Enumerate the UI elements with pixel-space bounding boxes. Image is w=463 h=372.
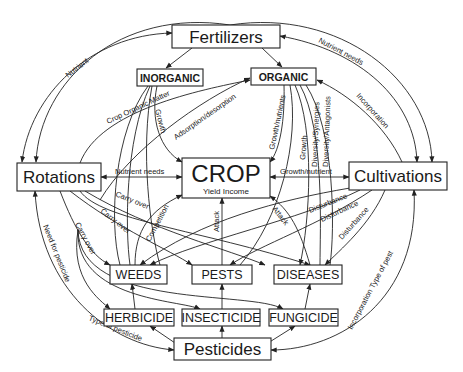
crop-sublabel: Yield Income — [203, 187, 250, 196]
node-organic: ORGANIC — [251, 68, 316, 85]
crop-label: CROP — [191, 160, 260, 187]
label-nutrient-needs-mid: Nutrient needs — [115, 167, 165, 176]
label-growth-organic: Growth — [298, 135, 309, 160]
label-diversity-antagonists: Diversity/Antagonists — [321, 96, 332, 167]
node-rotations: Rotations — [17, 163, 101, 191]
inorganic-label: INORGANIC — [140, 72, 201, 84]
herbicide-label: HERBICIDE — [105, 311, 173, 325]
node-diseases: DISEASES — [274, 265, 342, 284]
label-nutrient-needs-top: Nutrient needs — [317, 36, 365, 67]
diseases-label: DISEASES — [277, 268, 340, 282]
label-carry-over-1: Carry over — [114, 190, 151, 212]
node-crop: CROP Yield Income — [182, 158, 270, 198]
rotations-label: Rotations — [23, 168, 95, 187]
label-incorporation-type-of-pest: Incorporation Type of pest — [346, 249, 396, 331]
node-inorganic: INORGANIC — [137, 69, 203, 86]
label-adsorption: Adsorption/desorption — [172, 92, 238, 142]
node-fertilizers: Fertilizers — [172, 25, 280, 48]
cultivations-label: Cultivations — [354, 167, 442, 186]
label-attack-1: Attack — [212, 211, 221, 232]
crop-system-diagram: Nutrient Nutrient needs Crop Organic Mat… — [0, 0, 463, 372]
label-nutrient: Nutrient — [64, 56, 91, 80]
node-pesticides: Pesticides — [174, 338, 271, 360]
weeds-label: WEEDS — [116, 268, 162, 282]
fungicide-label: FUNGICIDE — [269, 311, 338, 325]
label-diversity-synergies: Diversity/Synergies — [310, 102, 321, 167]
pesticides-label: Pesticides — [184, 340, 261, 359]
label-growth-nutrients: Growth/nutrients — [267, 94, 287, 151]
node-herbicide: HERBICIDE — [104, 309, 174, 326]
node-pests: PESTS — [192, 265, 252, 284]
pests-label: PESTS — [202, 268, 243, 282]
label-growth-nutrient: Growth/nutrient — [280, 167, 333, 176]
label-growth-inorganic: Growth — [153, 108, 168, 134]
label-attack-2: Attack — [270, 205, 290, 227]
node-cultivations: Cultivations — [349, 162, 447, 190]
label-need-for-pesticide: Need for pesticide — [41, 223, 72, 283]
node-fungicide: FUNGICIDE — [269, 309, 338, 326]
node-weeds: WEEDS — [110, 265, 167, 284]
insecticide-label: INSECTICIDE — [181, 311, 260, 325]
node-insecticide: INSECTICIDE — [181, 309, 260, 326]
fertilizers-label: Fertilizers — [189, 28, 263, 47]
organic-label: ORGANIC — [259, 71, 309, 83]
label-incorporation-top: Incorporation — [355, 91, 391, 130]
